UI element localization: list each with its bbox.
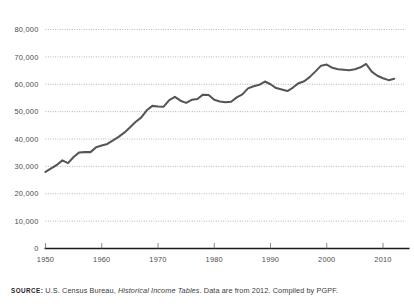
y-axis-tick-label: 10,000 xyxy=(14,217,38,226)
x-axis-tick-label: 1990 xyxy=(262,255,279,264)
source-note: SOURCE: U.S. Census Bureau, Historical I… xyxy=(11,286,407,296)
y-axis-tick-label: 40,000 xyxy=(14,135,38,144)
y-axis-tick-label: 60,000 xyxy=(14,80,38,89)
x-axis-tick-label: 2010 xyxy=(374,255,391,264)
data-series-line xyxy=(46,64,395,172)
x-axis-tick-label: 1960 xyxy=(93,255,110,264)
y-axis-tick-label: 50,000 xyxy=(14,107,38,116)
source-text-after: . Data are from 2012. Compiled by PGPF. xyxy=(200,286,339,295)
y-axis-tick-label: 70,000 xyxy=(14,53,38,62)
source-publication-title: Historical Income Tables xyxy=(118,286,200,295)
source-label: SOURCE: xyxy=(11,287,43,294)
y-axis-tick-label: 80,000 xyxy=(14,25,38,34)
y-axis-tick-label: 0 xyxy=(34,244,38,253)
x-axis-tick-label: 2000 xyxy=(318,255,335,264)
y-axis-tick-label: 20,000 xyxy=(14,189,38,198)
x-axis-tick-label: 1950 xyxy=(37,255,54,264)
x-axis-tick-label: 1980 xyxy=(206,255,223,264)
chart-plot-area: 010,00020,00030,00040,00050,00060,00070,… xyxy=(0,0,414,272)
chart-figure: 010,00020,00030,00040,00050,00060,00070,… xyxy=(0,0,414,306)
x-axis-tick-label: 1970 xyxy=(149,255,166,264)
y-axis-tick-label: 30,000 xyxy=(14,162,38,171)
line-chart-svg: 010,00020,00030,00040,00050,00060,00070,… xyxy=(0,0,414,272)
source-text-before: U.S. Census Bureau, xyxy=(43,286,118,295)
